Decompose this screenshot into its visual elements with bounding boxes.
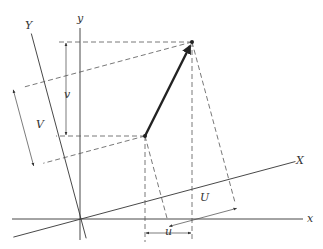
v-component-label: v: [64, 88, 71, 101]
u-component-label: u: [165, 225, 172, 238]
X-axis-label: X: [295, 154, 305, 167]
V-projection-bottom: [43, 136, 145, 163]
V-projection-top: [23, 42, 192, 87]
x-axis-label: x: [307, 212, 314, 225]
vector-arrow: [145, 46, 190, 136]
X-axis: [13, 162, 295, 238]
U-dimension: [169, 208, 236, 226]
V-component-label: V: [36, 118, 45, 131]
vector-end-point: [190, 40, 194, 44]
y-axis-label: y: [76, 12, 84, 25]
U-projection-right: [192, 42, 235, 203]
vector-start-point: [143, 134, 147, 138]
V-dimension: [13, 90, 33, 166]
rotation-diagram: x y X Y u v U V: [0, 0, 323, 249]
U-projection-left: [145, 136, 168, 221]
Y-axis-label: Y: [25, 19, 34, 32]
U-component-label: U: [200, 191, 210, 204]
